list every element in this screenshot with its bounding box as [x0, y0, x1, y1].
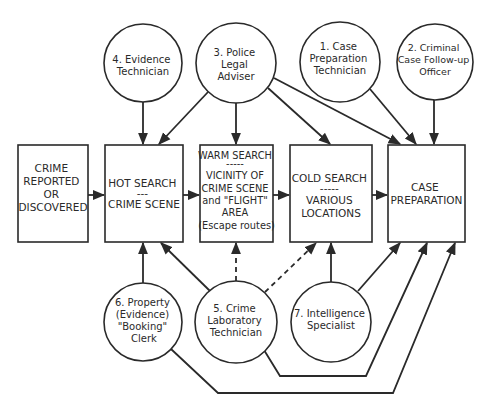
stage-case-preparation: CASE PREPARATION [388, 145, 465, 242]
role-6-property-booking-clerk: 6. Property (Evidence) "Booking" Clerk [104, 283, 182, 361]
role-4-evidence-technician: 4. Evidence Technician [104, 24, 182, 102]
edge-r7-to-case [358, 243, 400, 291]
stage-hot-search: HOT SEARCH --- CRIME SCENE [105, 145, 183, 242]
svg-text:5. Crime Laboratory: 5. Crime Laboratory Technician [207, 303, 265, 338]
edge-r1-to-case [370, 89, 416, 144]
edge-r5-to-hot [161, 243, 210, 291]
stage-warm-search: WARM SEARCH ----- VICINITY OF CRIME SCEN… [198, 145, 275, 242]
crime-investigation-flow-diagram: CRIME REPORTED OR DISCOVERED HOT SEARCH … [0, 0, 485, 408]
stage-cold-search: COLD SEARCH ----- VARIOUS LOCATIONS [290, 145, 372, 242]
role-1-case-preparation-technician: 1. Case Preparation Technician [300, 22, 380, 102]
edge-r5-to-cold [265, 243, 316, 292]
role-5-crime-laboratory-technician: 5. Crime Laboratory Technician [195, 281, 277, 363]
svg-text:4. Evidence Technician: 4. Evidence Technician [112, 54, 173, 77]
role-2-criminal-case-followup-officer: 2. Criminal Case Follow-up Officer [397, 24, 473, 100]
stage-crime-reported: CRIME REPORTED OR DISCOVERED [18, 145, 88, 242]
role-3-police-legal-adviser: 3. Police Legal Adviser [196, 23, 276, 103]
edge-r3-to-hot [159, 92, 208, 144]
role-7-intelligence-specialist: 7. Intelligence Specialist [291, 282, 371, 362]
